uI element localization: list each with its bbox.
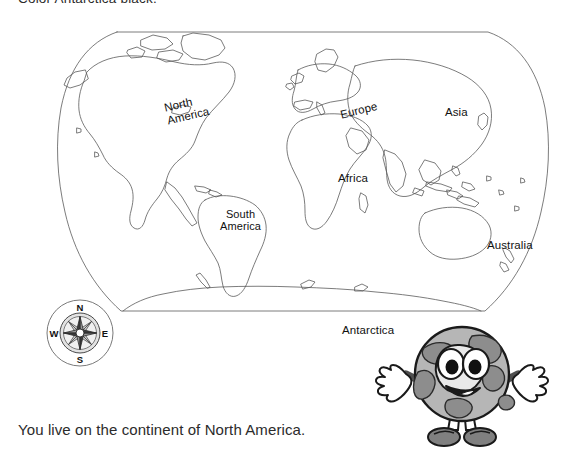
landmass-greenland	[181, 33, 225, 60]
landmass-southeast-asia	[419, 160, 441, 185]
landmass-new-zealand	[500, 248, 514, 272]
sentence-bottom-text: You live on the continent of North Ameri…	[18, 421, 305, 438]
antarctic-detail	[301, 280, 368, 291]
globe-mascot-character	[372, 322, 550, 450]
landmass-caribbean	[195, 186, 222, 197]
map-frame-outline	[58, 32, 549, 311]
continent-label-asia: Asia	[445, 106, 468, 118]
globe-mascot-svg	[372, 322, 550, 450]
mascot-pupil-right	[469, 360, 482, 375]
continent-label-south-america: South America	[220, 208, 261, 233]
label-line-1: South	[220, 208, 261, 220]
landmass-antarctica	[123, 286, 481, 311]
mascot-shoes	[428, 428, 496, 446]
compass-label-east: E	[102, 328, 108, 339]
landmass-pacific-islands	[487, 176, 525, 211]
mascot-pupil-left	[446, 360, 459, 375]
landmass-madagascar	[359, 193, 368, 213]
world-map-figure: North America South America Europe Asia …	[55, 30, 550, 315]
landmass-scandinavia	[315, 49, 338, 72]
continent-label-africa: Africa	[338, 172, 368, 184]
landmass-india	[383, 150, 406, 192]
landmass-iberia-italy	[294, 100, 325, 115]
landmass-philippines	[452, 166, 460, 176]
mascot-hand-right	[513, 365, 549, 402]
compass-label-south: S	[77, 354, 83, 365]
landmass-central-america	[165, 182, 197, 226]
compass-hub	[76, 329, 84, 337]
landmass-indonesia	[413, 182, 475, 199]
world-map-svg	[55, 30, 550, 315]
landmass-japan	[478, 113, 488, 130]
compass-label-north: N	[77, 302, 84, 313]
landmass-north-america	[79, 56, 235, 229]
compass-rose: N E S W	[43, 298, 117, 368]
continent-label-australia: Australia	[487, 239, 533, 251]
compass-label-west: W	[50, 328, 59, 339]
instruction-text-top: Color Antarctica black.	[18, 0, 157, 6]
mascot-hand-left	[376, 365, 412, 402]
antarctic-peninsula	[196, 273, 210, 288]
landmass-arabia	[346, 128, 369, 154]
compass-rose-svg: N E S W	[43, 298, 117, 368]
landmass-australia	[419, 207, 491, 259]
label-line-2: America	[220, 220, 261, 232]
